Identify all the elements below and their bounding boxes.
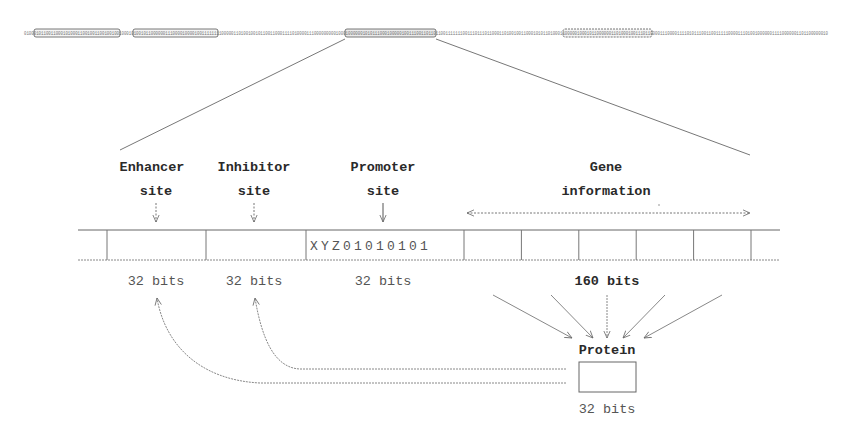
- protein-size: 32 bits: [579, 402, 636, 417]
- gene-arrow-4: [623, 295, 665, 338]
- enhancer-label-line1: Enhancer: [120, 160, 185, 175]
- gene-label-line2: information: [561, 184, 650, 199]
- zoom-line-right: [436, 39, 750, 155]
- gene-arrow-5: [644, 295, 722, 338]
- promoter-label-line1: Promoter: [351, 160, 416, 175]
- inhibitor-size: 32 bits: [226, 274, 283, 289]
- genome-region-box: [133, 29, 218, 37]
- promoter-sequence: XYZ01010101: [310, 239, 431, 254]
- gene-size: 160 bits: [575, 274, 640, 289]
- inhibitor-label-line2: site: [238, 184, 270, 199]
- promoter-label-line2: site: [367, 184, 399, 199]
- protein-box: [579, 362, 636, 392]
- enhancer-size: 32 bits: [128, 274, 185, 289]
- enhancer-label-line2: site: [140, 184, 172, 199]
- gene-arrow-2: [551, 295, 593, 338]
- protein-to-enhancer-curve: [157, 298, 566, 383]
- genome-region-box: [34, 29, 120, 37]
- genome-strip: 0100010110011000101000110010011001001001…: [24, 29, 828, 37]
- genome-region-box: [345, 29, 436, 37]
- protein-to-inhibitor-curve: [255, 298, 566, 369]
- inhibitor-label-line1: Inhibitor: [218, 160, 291, 175]
- gene-regulatory-network-diagram: 0100010110011000101000110010011001001001…: [0, 0, 850, 445]
- promoter-size: 32 bits: [355, 274, 412, 289]
- protein-label: Protein: [579, 343, 636, 358]
- stray-dot: [658, 204, 660, 206]
- genome-region-box: [563, 29, 652, 37]
- gene-to-protein-arrows: [493, 295, 722, 338]
- gene-arrow-1: [493, 295, 572, 338]
- gene-label-line1: Gene: [590, 160, 622, 175]
- zoom-line-left: [120, 39, 345, 150]
- gene-dividers: [521, 230, 751, 260]
